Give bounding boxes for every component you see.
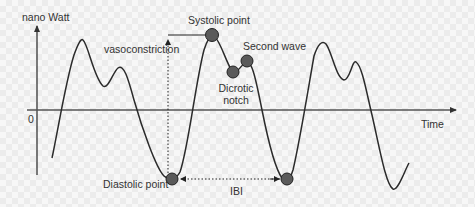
second-wave-marker — [241, 55, 253, 67]
dicrotic-notch-label: Dicrotic notch — [218, 82, 254, 106]
dicrotic-notch-label-line1: Dicrotic — [218, 82, 254, 94]
systolic-point-marker — [206, 29, 219, 42]
waveform-curve — [52, 36, 409, 189]
origin-label: 0 — [28, 113, 34, 125]
systolic-point-label: Systolic point — [188, 14, 250, 26]
ibi-label: IBI — [230, 185, 243, 197]
diastolic-point-label: Diastolic point — [103, 178, 168, 190]
vasoconstriction-label: vasoconstriction — [104, 43, 179, 55]
ibi-end-marker — [281, 173, 293, 185]
ppg-waveform-diagram: nano Watt 0 Time Systolic point Second w… — [0, 0, 475, 207]
dicrotic-notch-marker — [227, 66, 239, 78]
y-axis-label: nano Watt — [22, 11, 69, 23]
x-axis-label: Time — [421, 118, 444, 130]
dicrotic-notch-label-line2: notch — [218, 94, 254, 106]
second-wave-label: Second wave — [243, 40, 306, 52]
